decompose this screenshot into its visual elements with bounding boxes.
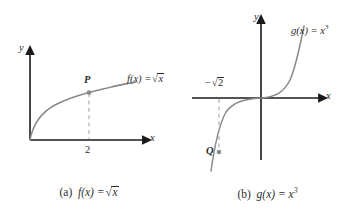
panel-b-point-q-marker [217,150,222,155]
panel-a-curve-sqrt [30,82,136,140]
panel-a-caption-fn: f(x) = [78,186,105,198]
panel-a-caption-label: (a) [59,186,72,198]
panel-a-plot [0,0,178,186]
figure-container: y x P 2 f(x) =√x (a) f(x) =√x [0,0,357,212]
panel-b-y-axis-label: y [254,12,259,23]
panel-b-curve-label: g(x) = x3 [291,24,328,36]
panel-b-tick-radicand: 2 [217,77,224,89]
panel-a-point-p-marker [87,90,92,95]
panel-a-caption-radicand: x [111,186,118,199]
panel-a-x-tick-2: 2 [85,145,90,156]
panel-b-tick-radical: √2 [211,77,224,89]
panel-b-caption-exponent: 3 [294,186,298,195]
panel-a-caption-radical: √x [105,186,119,199]
panel-a-curve-label: f(x) =√x [127,73,164,85]
panel-b-curve-label-exponent: 3 [325,23,329,31]
panel-a-y-axis-label: y [19,43,24,54]
panel-a-sqrt: y x P 2 f(x) =√x (a) f(x) =√x [0,0,178,212]
panel-a-caption: (a) f(x) =√x [0,186,178,199]
panel-a-point-p-label: P [84,75,90,86]
panel-b-caption: (b) g(x) = x3 [178,186,357,200]
panel-a-curve-label-radicand: x [157,73,164,85]
panel-b-x-tick-neg-sqrt2: −√2 [205,77,224,89]
panel-b-caption-fn: g(x) = x [257,188,294,200]
panel-a-curve-label-fn: f(x) = [127,73,151,84]
panel-a-x-axis-label: x [150,133,155,144]
panel-b-caption-label: (b) [237,188,250,200]
panel-b-curve-label-fn: g(x) = x [291,25,325,36]
panel-b-cubic: y x Q −√2 g(x) = x3 (b) g(x) = x3 [178,0,357,212]
panel-b-x-axis-label: x [326,91,331,102]
panel-a-curve-label-radical: √x [151,73,164,85]
panel-b-point-q-label: Q [206,146,214,157]
